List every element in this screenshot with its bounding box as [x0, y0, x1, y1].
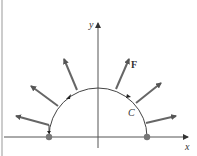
vector-arrow	[146, 116, 176, 123]
vector-arrow	[136, 83, 161, 103]
vector-arrow	[31, 86, 58, 106]
vector-arrow	[64, 59, 77, 90]
curve-direction-arrow-right	[126, 94, 131, 98]
end-point-dot	[144, 134, 150, 140]
curve-direction-arrow-left	[66, 94, 71, 99]
vector-field-label: F	[131, 59, 137, 70]
start-point-dot	[46, 134, 52, 140]
vector-field-diagram: y x F C	[0, 0, 197, 156]
vector-arrow	[116, 59, 129, 89]
endpoint-tick-arrow	[47, 131, 51, 134]
y-axis-label: y	[88, 19, 94, 30]
curve-label: C	[128, 107, 135, 118]
x-axis-label: x	[184, 141, 190, 152]
vector-arrow	[16, 116, 49, 125]
